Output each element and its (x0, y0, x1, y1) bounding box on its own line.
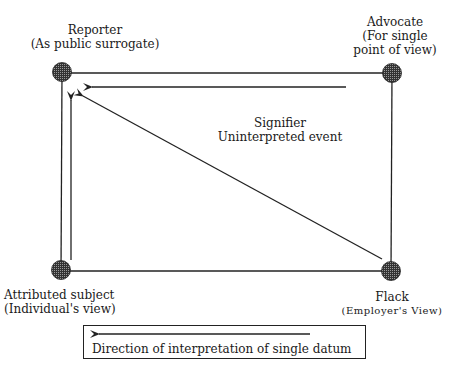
reporter-subtitle: (As public surrogate) (30, 37, 160, 51)
attributed-subtitle: (Individual's view) (4, 302, 129, 316)
legend: Direction of interpretation of single da… (83, 325, 366, 359)
flack-subtitle: (Employer's View) (333, 304, 451, 318)
reporter-label: Reporter (As public surrogate) (30, 23, 160, 51)
node-flack (382, 262, 401, 281)
edge-left (61, 73, 62, 271)
reporter-title: Reporter (30, 23, 160, 37)
center-label: Signifier Uninterpreted event (215, 116, 345, 144)
advocate-line3: point of view) (340, 43, 450, 57)
flack-label: Flack (Employer's View) (333, 290, 451, 318)
flack-title: Flack (333, 290, 451, 304)
uninterpreted-event-text: Uninterpreted event (215, 130, 345, 144)
advocate-label: Advocate (For single point of view) (340, 15, 450, 57)
attributed-title: Attributed subject (4, 288, 129, 302)
node-reporter (53, 63, 72, 82)
attributed-label: Attributed subject (Individual's view) (4, 288, 129, 316)
advocate-line2: (For single (340, 29, 450, 43)
edge-right (391, 73, 392, 271)
advocate-title: Advocate (340, 15, 450, 29)
node-attributed (52, 261, 71, 280)
legend-text: Direction of interpretation of single da… (92, 342, 351, 356)
node-advocate (383, 64, 402, 83)
signifier-text: Signifier (215, 116, 345, 130)
